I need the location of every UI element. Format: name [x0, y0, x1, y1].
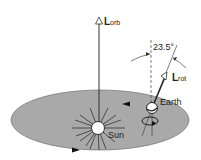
orbit-diagram	[0, 0, 201, 160]
lorb-label: Lorb	[104, 17, 120, 27]
lorb-label-sub: orb	[110, 19, 120, 26]
earth-label: Earth	[160, 98, 182, 107]
sun-label: Sun	[108, 131, 124, 140]
earth	[147, 103, 158, 114]
sun	[92, 122, 105, 135]
lrot-label: Lrot	[172, 73, 186, 83]
angle-arrow-left	[146, 52, 150, 56]
angle-label: 23.5°	[153, 43, 174, 52]
lrot-label-sub: rot	[178, 75, 186, 82]
lrot-arrowhead	[161, 72, 167, 80]
lorb-arrowhead	[96, 17, 103, 24]
